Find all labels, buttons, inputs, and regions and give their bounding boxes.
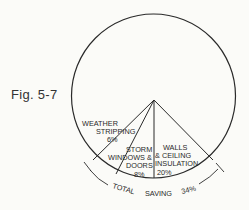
svg-text:SAVING: SAVING [145, 189, 172, 198]
pie-chart: WEATHER STRIPPING 6% STORM WINDOWS & DOO… [0, 0, 249, 210]
svg-text:6%: 6% [107, 135, 118, 144]
svg-text:20%: 20% [157, 168, 172, 177]
label-storm-windows-doors: STORM WINDOWS & DOORS 8% [108, 145, 153, 179]
bracket-tick-left [84, 162, 91, 171]
svg-text:INSULATION: INSULATION [155, 159, 198, 168]
label-weather-stripping: WEATHER STRIPPING 6% [82, 119, 136, 144]
total-saving-label: TOTAL SAVING 34% [111, 181, 197, 198]
bracket-tick-right [216, 163, 224, 172]
label-walls-ceiling-insulation: WALLS & CEILING INSULATION 20% [155, 143, 198, 177]
bracket-arc-left [90, 170, 108, 185]
svg-text:34%: 34% [180, 184, 197, 196]
svg-text:DOORS: DOORS [126, 161, 153, 170]
svg-text:8%: 8% [134, 170, 145, 179]
svg-text:TOTAL: TOTAL [111, 181, 135, 196]
bracket-arc-right [199, 169, 218, 184]
